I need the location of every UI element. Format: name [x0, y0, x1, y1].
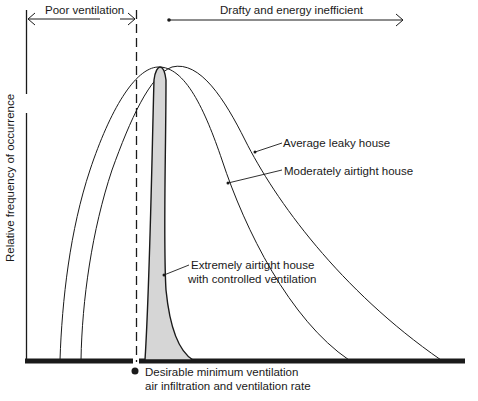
ventilation-distribution-diagram: Poor ventilation Drafty and energy ineff…: [0, 0, 478, 401]
poor-ventilation-label: Poor ventilation: [45, 4, 124, 17]
average-leaky-curve: [81, 66, 441, 360]
x-axis: [25, 359, 465, 364]
extremely-airtight-label-line1: Extremely airtight house: [191, 259, 314, 272]
threshold-label-line2: air infiltration and ventilation rate: [145, 380, 311, 393]
threshold-dot-icon: [132, 368, 139, 375]
drafty-label: Drafty and energy inefficient: [220, 4, 363, 17]
extremely-airtight-label-line2: with controlled ventilation: [188, 273, 317, 286]
moderately-airtight-label: Moderately airtight house: [284, 165, 413, 178]
extremely-airtight-spike: [145, 67, 193, 360]
moderately-airtight-curve: [60, 67, 349, 360]
threshold-label-line1: Desirable minimum ventilation: [145, 366, 298, 379]
average-leaky-label: Average leaky house: [283, 137, 390, 150]
y-axis-label: Relative frequency of occurrence: [4, 94, 16, 262]
